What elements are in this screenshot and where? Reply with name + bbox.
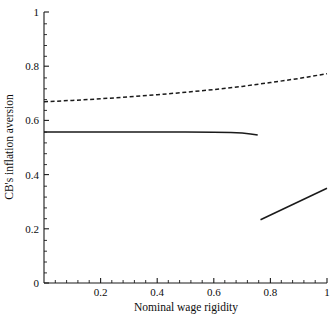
x-axis-title: Nominal wage rigidity <box>134 301 238 314</box>
chart-figure: 1 0.8 0.6 0.4 0.2 0 0.2 0.4 0.6 0.8 1 No… <box>0 0 336 318</box>
x-tick-label-0-4: 0.4 <box>150 286 164 298</box>
x-tick-label-0-8: 0.8 <box>264 286 278 298</box>
y-tick-label-1: 1 <box>34 6 40 18</box>
y-axis-major-ticks <box>44 12 49 283</box>
series-solid-upper <box>44 132 258 135</box>
x-tick-label-0-2: 0.2 <box>94 286 108 298</box>
x-tick-label-0-6: 0.6 <box>207 286 221 298</box>
y-tick-label-0-8: 0.8 <box>25 60 39 72</box>
series-dashed-upper <box>44 74 327 102</box>
y-axis-title: CB's inflation aversion <box>3 94 15 200</box>
y-tick-label-0-2: 0.2 <box>25 223 39 235</box>
chart-canvas: 1 0.8 0.6 0.4 0.2 0 0.2 0.4 0.6 0.8 1 No… <box>0 0 336 318</box>
y-tick-label-0: 0 <box>34 277 40 289</box>
y-tick-label-0-6: 0.6 <box>25 114 39 126</box>
series-solid-lower <box>261 188 328 220</box>
y-tick-label-0-4: 0.4 <box>25 169 39 181</box>
x-tick-label-1: 1 <box>324 286 330 298</box>
